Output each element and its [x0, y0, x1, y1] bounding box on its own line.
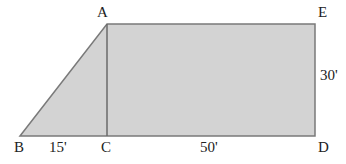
vertex-label-c: C: [101, 140, 111, 155]
dimension-de: 30': [320, 68, 338, 83]
dimension-bc: 15': [49, 140, 67, 155]
vertex-label-d: D: [318, 140, 329, 155]
dimension-cd: 50': [200, 140, 218, 155]
vertex-label-e: E: [318, 5, 327, 20]
vertex-label-a: A: [97, 5, 108, 20]
trapezoid-shape: [20, 24, 315, 136]
vertex-label-b: B: [14, 140, 24, 155]
